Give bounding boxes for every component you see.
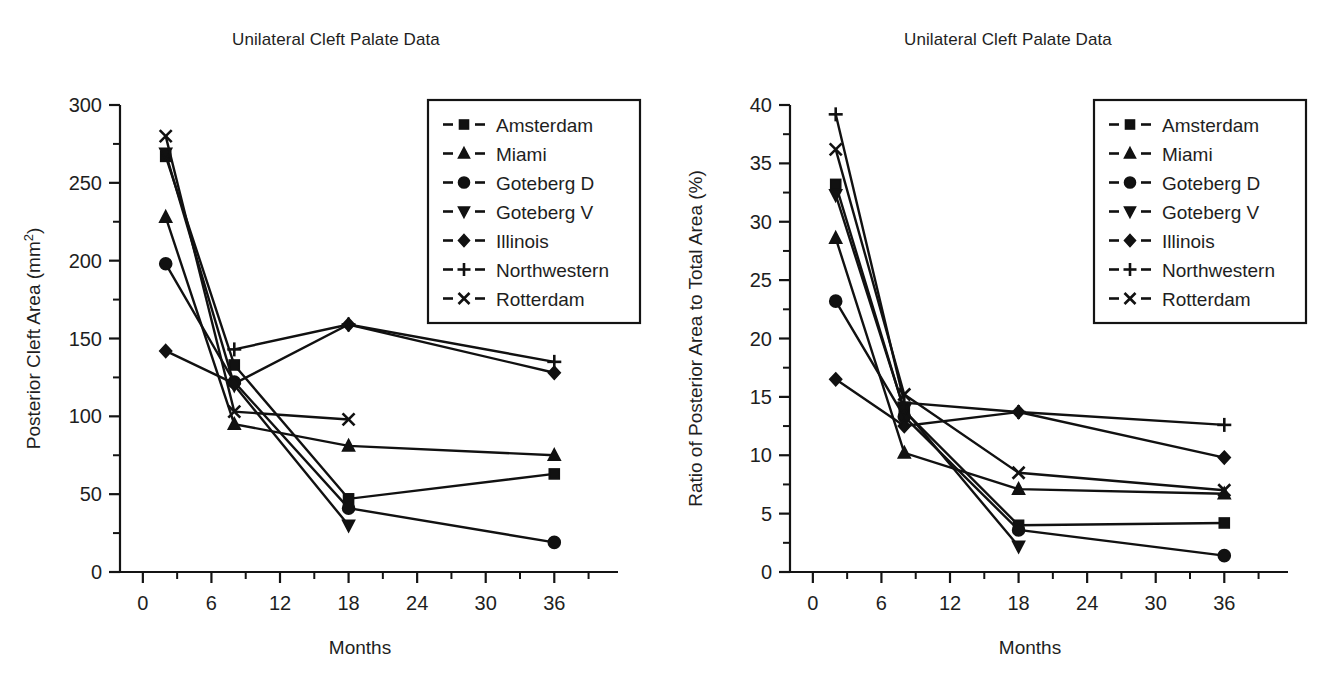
data-point-marker: [1218, 550, 1230, 562]
y-tick-label: 0: [761, 561, 772, 583]
y-tick-label: 0: [91, 561, 102, 583]
data-point-marker: [829, 107, 843, 121]
data-point-marker: [229, 360, 239, 370]
series-polyline: [166, 136, 349, 419]
series-polyline: [836, 301, 1225, 556]
series-goteberg-v: [160, 148, 355, 532]
legend-item-label: Rotterdam: [496, 289, 585, 310]
data-point-marker: [160, 344, 172, 357]
data-point-marker: [1219, 518, 1229, 528]
data-point-marker: [830, 295, 842, 307]
figure-container: Unilateral Cleft Palate Data 05010015020…: [0, 0, 1344, 684]
data-point-marker: [160, 258, 172, 270]
legend-item-label: Goteberg D: [496, 173, 594, 194]
y-tick-label: 200: [69, 250, 102, 272]
y-tick-label: 20: [750, 328, 772, 350]
y-tick-label: 15: [750, 386, 772, 408]
chart-panel-right: Unilateral Cleft Palate Data 05101520253…: [672, 0, 1344, 684]
legend-item-label: Goteberg D: [1162, 173, 1260, 194]
y-tick-label: 50: [80, 483, 102, 505]
y-tick-label: 30: [750, 211, 772, 233]
legend-marker-circle-icon: [1125, 177, 1136, 188]
x-tick-label: 6: [206, 592, 217, 614]
y-tick-label: 5: [761, 503, 772, 525]
legend-item-label: Miami: [1162, 144, 1213, 165]
data-point-marker: [343, 520, 355, 532]
legend-item-label: Northwestern: [1162, 260, 1275, 281]
y-axis-title: Posterior Cleft Area (mm2): [21, 228, 45, 450]
series-polyline: [234, 324, 554, 361]
y-tick-label: 100: [69, 405, 102, 427]
chart-legend: AmsterdamMiamiGoteberg DGoteberg VIllino…: [428, 100, 640, 323]
chart-legend: AmsterdamMiamiGoteberg DGoteberg VIllino…: [1094, 100, 1306, 323]
series-illinois: [830, 373, 1231, 464]
data-point-marker: [227, 342, 241, 356]
data-point-marker: [898, 446, 910, 458]
x-tick-label: 36: [543, 592, 565, 614]
legend-item-label: Miami: [496, 144, 547, 165]
series-goteberg-d: [830, 295, 1231, 562]
series-goteberg-v: [830, 190, 1025, 553]
data-point-marker: [830, 232, 842, 244]
y-tick-label: 35: [750, 152, 772, 174]
legend-item-label: Illinois: [496, 231, 549, 252]
legend-marker-square-icon: [460, 120, 469, 129]
legend-item-label: Goteberg V: [496, 202, 593, 223]
data-point-marker: [1013, 524, 1025, 536]
data-point-marker: [160, 211, 172, 223]
data-point-marker: [831, 179, 841, 189]
series-rotterdam: [160, 130, 355, 425]
legend-item-label: Amsterdam: [496, 115, 593, 136]
x-tick-label: 12: [939, 592, 961, 614]
data-point-marker: [343, 502, 355, 514]
x-tick-label: 24: [406, 592, 428, 614]
data-point-marker: [228, 418, 240, 430]
legend-marker-circle-icon: [459, 177, 470, 188]
x-tick-label: 0: [807, 592, 818, 614]
data-point-marker: [1013, 541, 1025, 553]
data-point-marker: [1217, 418, 1231, 432]
chart-panel-left: Unilateral Cleft Palate Data 05010015020…: [0, 0, 672, 684]
x-tick-label: 12: [269, 592, 291, 614]
svg-text:Ratio of Posterior Area to Tot: Ratio of Posterior Area to Total Area (%…: [685, 170, 706, 507]
line-chart-left: 050100150200250300061218243036MonthsPost…: [0, 0, 672, 684]
data-point-marker: [547, 355, 561, 369]
y-tick-label: 10: [750, 444, 772, 466]
legend-item-label: Northwestern: [496, 260, 609, 281]
legend-item-label: Rotterdam: [1162, 289, 1251, 310]
data-point-marker: [342, 317, 356, 331]
x-tick-label: 18: [337, 592, 359, 614]
data-point-marker: [830, 373, 842, 386]
data-point-marker: [549, 469, 559, 479]
svg-text:Posterior Cleft Area (mm2): Posterior Cleft Area (mm2): [21, 228, 45, 450]
y-tick-label: 150: [69, 328, 102, 350]
data-point-marker: [548, 536, 560, 548]
y-tick-label: 40: [750, 94, 772, 116]
x-axis-title: Months: [329, 637, 391, 658]
x-tick-label: 30: [475, 592, 497, 614]
legend-item-label: Amsterdam: [1162, 115, 1259, 136]
line-chart-right: 0510152025303540061218243036MonthsRatio …: [672, 0, 1344, 684]
x-tick-label: 24: [1076, 592, 1098, 614]
x-axis-title: Months: [999, 637, 1061, 658]
x-tick-label: 0: [137, 592, 148, 614]
y-tick-label: 300: [69, 94, 102, 116]
legend-item-label: Illinois: [1162, 231, 1215, 252]
x-tick-label: 18: [1007, 592, 1029, 614]
data-point-marker: [1012, 405, 1026, 419]
y-tick-label: 250: [69, 172, 102, 194]
x-tick-label: 6: [876, 592, 887, 614]
series-polyline: [836, 379, 1225, 457]
y-tick-label: 25: [750, 269, 772, 291]
x-tick-label: 36: [1213, 592, 1235, 614]
legend-item-label: Goteberg V: [1162, 202, 1259, 223]
data-point-marker: [1218, 451, 1230, 464]
legend-marker-square-icon: [1126, 120, 1135, 129]
x-tick-label: 30: [1145, 592, 1167, 614]
y-axis-title: Ratio of Posterior Area to Total Area (%…: [685, 170, 706, 507]
